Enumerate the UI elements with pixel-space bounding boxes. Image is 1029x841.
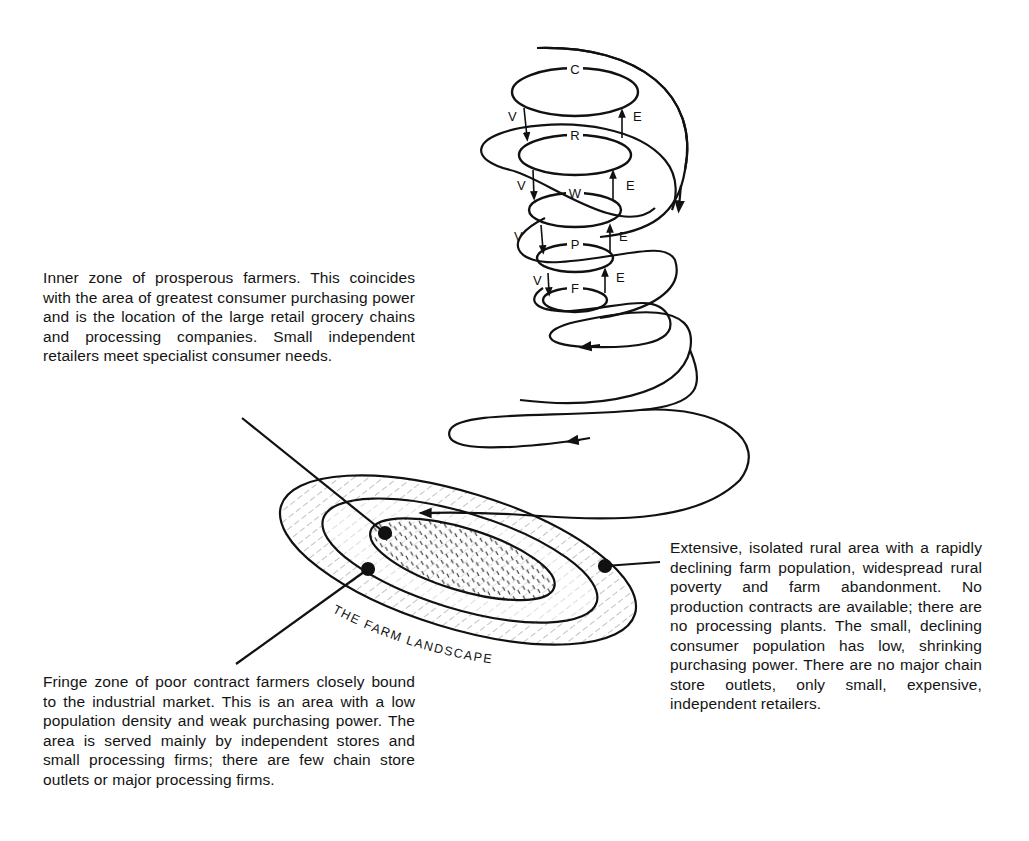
expense-flow-label: E [633,109,642,124]
fringe-zone-caption: Fringe zone of poor contract farmers clo… [43,672,415,789]
spiral-path [420,48,749,519]
level-r-label: R [570,128,579,143]
value-flow-label: V [517,178,526,193]
value-flow-label: V [533,273,542,288]
inner-zone-marker [379,527,391,539]
farm-landscape [261,441,655,679]
expense-flow-label: E [616,270,625,285]
level-c-label: C [570,62,579,77]
expense-flow-label: E [626,178,635,193]
level-f-label: F [571,281,579,296]
outer-zone-caption: Extensive, isolated rural area with a ra… [670,538,982,714]
value-flow-label: V [508,109,517,124]
fringe-zone-marker [362,563,374,575]
expense-flow-label: E [619,229,628,244]
outer-zone-marker [599,560,611,572]
inner-zone-caption: Inner zone of prosperous farmers. This c… [43,268,415,366]
level-p-label: P [571,237,580,252]
